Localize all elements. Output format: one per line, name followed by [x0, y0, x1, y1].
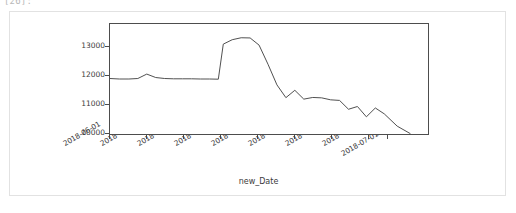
x-tick-mark-8 [387, 135, 388, 139]
notebook-output-card: 13000 12000 11000 10000 2018-06-01 2018-… [9, 11, 506, 196]
line-chart-svg [110, 24, 428, 134]
x-axis-title-text: new_Date [239, 177, 279, 186]
y-tick-label-13000: 13000 [81, 42, 105, 50]
y-tick-label-11000: 11000 [81, 100, 105, 108]
data-series-line [110, 38, 410, 134]
plot-axes-frame [109, 23, 429, 135]
y-axis-tick-labels: 13000 12000 11000 10000 [68, 23, 105, 135]
notebook-output-prompt: [26]: [4, 0, 32, 6]
x-axis-title: new_Date [10, 177, 507, 186]
y-tick-label-12000: 12000 [81, 71, 105, 79]
matplotlib-figure: 13000 12000 11000 10000 2018-06-01 2018-… [10, 12, 507, 197]
